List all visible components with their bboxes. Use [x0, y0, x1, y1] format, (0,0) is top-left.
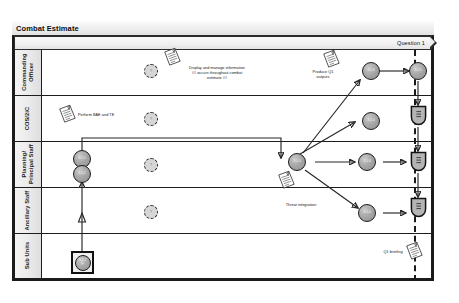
note-label-threat-integration: Threat integration	[272, 203, 330, 208]
node-label: 3.1.2	[78, 172, 86, 176]
note-icon-threat-integration	[276, 169, 298, 191]
ghost-node-cos-2ic[interactable]: ?	[144, 112, 158, 126]
lane-label-commanding-officer: CommandingOfficer	[21, 54, 35, 91]
node-3-1-6-commanding-officer[interactable]: 3.1.6	[362, 62, 380, 80]
artifact-q1-output-cos-2ic[interactable]	[410, 105, 427, 126]
diagram-canvas: Combat Estimate Question 1 CommandingOff…	[0, 0, 459, 303]
artifact-q1-output-ancillary-staff[interactable]	[410, 197, 427, 218]
note-label-produce-q1: Produce Q1outputs	[300, 70, 346, 80]
node-3-1-2-planning-staff[interactable]: 3.1.2	[73, 165, 91, 183]
note-icon-perform-bae	[57, 103, 79, 125]
lane-label-cos-2ic: COS/2iC	[24, 107, 31, 130]
page-title: Combat Estimate	[16, 24, 79, 33]
node-label: 3.1.4	[367, 119, 375, 123]
phase-band-question-1: Question 1	[14, 36, 432, 50]
note-icon-produce-q1	[321, 48, 343, 70]
node-label: 3.1.1	[78, 157, 86, 161]
phase-chevron-inner-icon	[430, 37, 435, 47]
ghost-node-ancillary-staff[interactable]: ?	[144, 205, 158, 219]
node-3-1-4-cos-2ic[interactable]: 3.1.4	[362, 112, 380, 130]
node-label: 3.1.6	[367, 69, 375, 73]
lane-label-sub-units: Sub Units	[24, 242, 31, 269]
lane-header-commanding-officer: CommandingOfficer	[15, 50, 42, 95]
node-label: 3.1.2F	[79, 259, 86, 266]
node-label: 3.1.4	[363, 160, 371, 164]
lane-header-sub-units: Sub Units	[15, 234, 42, 278]
ghost-node-label: ?	[150, 117, 152, 121]
lane-label-planning-principal-staff: Planning/Principal Staff	[21, 145, 35, 185]
ghost-node-planning-staff[interactable]: ?	[144, 158, 158, 172]
node-label: 3.1.5	[414, 69, 422, 73]
lane-header-cos-2ic: COS/2iC	[15, 96, 42, 141]
node-3-1-5-commanding-officer[interactable]: 3.1.5	[409, 62, 427, 80]
lane-header-ancillary-staff: Ancillary Staff	[15, 188, 42, 233]
node-label: 3.1.4	[363, 211, 371, 215]
note-label-perform-bae: Perform BAE and TE	[78, 113, 136, 118]
phase-label: Question 1	[397, 40, 425, 46]
ghost-node-label: ?	[150, 210, 152, 214]
ghost-node-label: ?	[150, 163, 152, 167]
node-3-1-4-ancillary-staff[interactable]: 3.1.4	[358, 204, 376, 222]
node-3-1-4-planning-staff[interactable]: 3.1.4	[358, 153, 376, 171]
lane-header-planning-principal-staff: Planning/Principal Staff	[15, 142, 42, 187]
lane-label-ancillary-staff: Ancillary Staff	[24, 191, 31, 231]
lane-body-sub-units	[42, 234, 431, 278]
artifact-q1-output-planning-staff[interactable]	[410, 151, 427, 172]
ghost-node-commanding-officer[interactable]: ?	[144, 64, 158, 78]
ghost-node-label: ?	[150, 69, 152, 73]
note-label-display-manage: Display and manage information## occurs …	[166, 66, 268, 81]
note-icon-display-manage	[162, 46, 184, 68]
node-3-1-2-f-sub-units[interactable]: 3.1.2F	[71, 251, 94, 274]
node-label: 3.1.3	[293, 160, 301, 164]
note-label-q1-briefing: Q1 briefing	[376, 250, 410, 255]
diagram-title-bar: Combat Estimate	[12, 21, 434, 36]
